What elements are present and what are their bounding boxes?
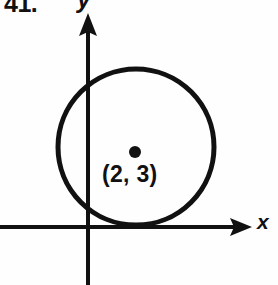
problem-number: 41. [4, 0, 37, 16]
circle-graph-figure: 41. y x (2, 3) [0, 0, 278, 285]
coordinate-plane-svg [0, 0, 278, 285]
y-axis-label: y [77, 0, 91, 12]
center-point-label: (2, 3) [102, 163, 157, 186]
x-axis-label: x [257, 211, 269, 232]
center-point-dot [129, 146, 141, 158]
